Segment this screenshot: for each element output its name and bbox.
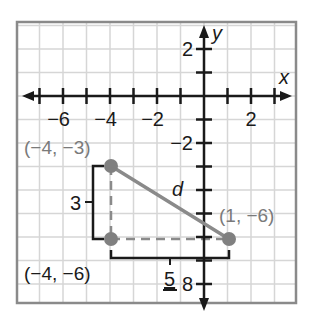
x-tick-label: 2 — [245, 108, 256, 130]
point-c — [222, 232, 236, 246]
x-axis-left-arrow-icon — [22, 91, 34, 101]
y-tick-label: 2 — [182, 38, 193, 60]
horizontal-leg-label: 5 — [164, 268, 175, 290]
point-b-label: (−4, −6) — [24, 263, 91, 284]
vertical-leg-bracket — [93, 166, 104, 239]
x-tick-label: −2 — [141, 108, 164, 130]
hypotenuse-segment — [111, 166, 229, 239]
point-c-label: (1, −6) — [219, 205, 274, 226]
y-tick-label: 8 — [182, 273, 193, 295]
y-axis-down-arrow-icon — [199, 298, 209, 311]
point-b — [104, 232, 118, 246]
x-tick-label: −6 — [47, 108, 70, 130]
y-tick-label: −2 — [170, 132, 193, 154]
x-tick-label: −4 — [94, 108, 117, 130]
vertical-leg-label: 3 — [70, 192, 81, 214]
point-a-label: (−4, −3) — [24, 137, 91, 158]
x-axis-label: x — [278, 66, 290, 88]
point-a — [104, 159, 118, 173]
y-axis-label: y — [210, 22, 223, 44]
x-axis — [22, 88, 292, 104]
hypotenuse-label: d — [172, 178, 184, 200]
horizontal-leg-bracket — [111, 250, 229, 258]
x-axis-right-arrow-icon — [280, 91, 292, 101]
coordinate-graph: x y (−4, −3) (−4, −6) (1, −6) d 3 5 −6−4… — [0, 0, 316, 324]
grid-lines — [18, 23, 295, 302]
y-axis — [196, 25, 212, 311]
y-axis-up-arrow-icon — [199, 25, 209, 38]
